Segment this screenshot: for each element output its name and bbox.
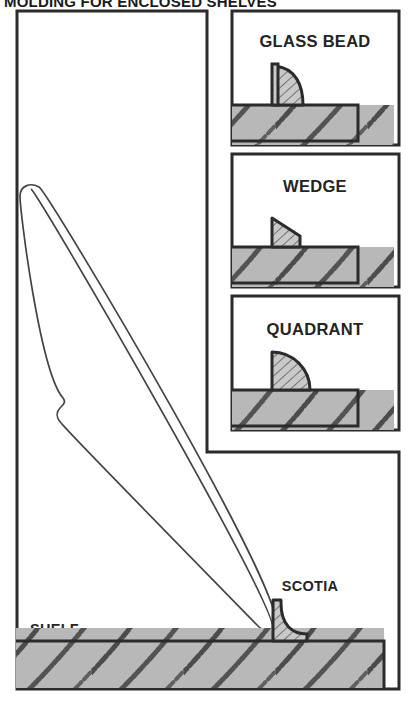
molding-diagram: MOLDING FOR ENCLOSED SHELVES GLASS BEAD … — [0, 0, 415, 706]
wedge-panel: WEDGE — [232, 154, 399, 287]
quadrant-base-board — [232, 390, 394, 430]
glass-bead-panel-label: GLASS BEAD — [259, 32, 370, 50]
glass-bead-fillet — [272, 64, 278, 105]
shelf-board — [16, 628, 384, 688]
quadrant-panel: QUADRANT — [232, 296, 399, 430]
quadrant-panel-label: QUADRANT — [267, 320, 364, 338]
scotia-label: SCOTIA — [282, 578, 339, 594]
glass-bead-panel: GLASS BEAD — [232, 11, 399, 145]
glass-bead-base-board — [232, 105, 394, 145]
figure-title: MOLDING FOR ENCLOSED SHELVES — [4, 0, 277, 10]
wedge-base-board — [232, 247, 394, 287]
wedge-panel-label: WEDGE — [283, 177, 347, 195]
